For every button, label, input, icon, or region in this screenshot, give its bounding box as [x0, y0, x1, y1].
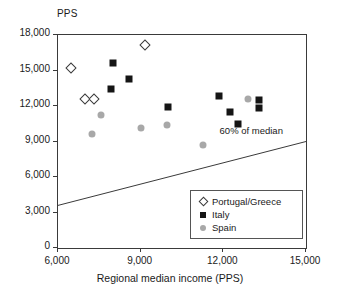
y-axis-unit-label: PPS [57, 8, 78, 19]
data-point-spain [163, 121, 170, 128]
data-point-italy [256, 97, 263, 104]
data-point-spain [200, 142, 207, 149]
y-axis-tick-label: 3,000 [25, 205, 50, 216]
x-axis-tick-mark [222, 248, 223, 252]
data-point-italy [227, 108, 234, 115]
data-point-spain [89, 131, 96, 138]
y-axis-tick-label: 15,000 [19, 63, 50, 74]
x-axis-tick-mark [305, 248, 306, 252]
x-axis-tick-label: 9,000 [115, 255, 165, 266]
x-axis-tick-label: 6,000 [32, 255, 82, 266]
legend-item[interactable]: Spain [197, 221, 297, 234]
x-axis-tick-label: 15,000 [280, 255, 330, 266]
data-point-spain [137, 124, 144, 131]
legend-item-label: Portugal/Greece [212, 196, 281, 207]
y-axis-tick-label: 12,000 [19, 98, 50, 109]
data-point-italy [256, 104, 263, 111]
data-point-italy [125, 76, 132, 83]
data-point-spain [245, 95, 252, 102]
y-axis-tick-label: 6,000 [25, 169, 50, 180]
x-axis-tick-mark [140, 248, 141, 252]
x-axis-title: Regional median income (PPS) [0, 272, 340, 284]
legend-item-label: Spain [212, 222, 236, 233]
x-axis-tick-label: 12,000 [197, 255, 247, 266]
chart-legend: Portugal/GreeceItalySpain [190, 190, 303, 239]
data-point-italy [216, 92, 223, 99]
y-axis-tick-label: 9,000 [25, 134, 50, 145]
legend-item-label: Italy [212, 209, 229, 220]
legend-marker-icon [197, 212, 209, 218]
legend-item[interactable]: Portugal/Greece [197, 195, 297, 208]
legend-marker-icon [197, 225, 209, 231]
legend-marker-icon [197, 198, 209, 205]
data-point-italy [108, 86, 115, 93]
x-axis-tick-mark [57, 248, 58, 252]
data-point-spain [97, 111, 104, 118]
reference-line-annotation: 60% of median [220, 125, 283, 136]
legend-item[interactable]: Italy [197, 208, 297, 221]
data-point-italy [109, 60, 116, 67]
y-axis-tick-label: 0 [44, 240, 50, 251]
chart-figure: PPS 03,0006,0009,00012,00015,00018,000 6… [0, 0, 340, 292]
data-point-italy [165, 104, 172, 111]
y-axis-tick-label: 18,000 [19, 27, 50, 38]
